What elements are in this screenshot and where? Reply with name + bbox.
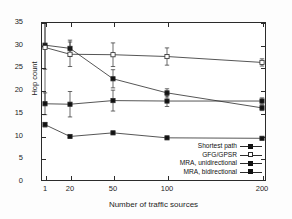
legend-key-filled-square-icon bbox=[240, 142, 262, 151]
y-tick-label: 0 bbox=[0, 177, 23, 184]
legend-key-filled-square-icon bbox=[240, 159, 262, 168]
legend-item-mra-bidirectional: MRA, bidirectional bbox=[178, 168, 262, 177]
y-tick-label: 10 bbox=[0, 132, 23, 139]
legend-label: Shortest path bbox=[198, 142, 240, 151]
legend-label: MRA, unidirectional bbox=[180, 159, 240, 168]
x-axis-title: Number of traffic sources bbox=[41, 200, 266, 209]
y-tick-label: 15 bbox=[0, 109, 23, 116]
legend-key-open-square-icon bbox=[240, 151, 262, 160]
legend-item-mra-unidirectional: MRA, unidirectional bbox=[178, 159, 262, 168]
y-tick-label: 35 bbox=[0, 18, 23, 25]
x-tick-label: 100 bbox=[147, 184, 187, 193]
legend-item-shortest-path: Shortest path bbox=[178, 142, 262, 151]
chart-figure: Hop count 35 30 25 20 15 10 5 0 1 20 50 … bbox=[0, 0, 292, 219]
x-tick-label: 200 bbox=[242, 184, 282, 193]
y-tick-label: 5 bbox=[0, 154, 23, 161]
y-tick-label: 30 bbox=[0, 41, 23, 48]
y-axis-title: Hop count bbox=[30, 44, 39, 114]
y-tick-label: 25 bbox=[0, 63, 23, 70]
x-tick-label: 50 bbox=[93, 184, 133, 193]
legend-key-filled-square-icon bbox=[240, 168, 262, 177]
legend-label: GFG/GPSR bbox=[202, 151, 240, 160]
x-tick-label: 20 bbox=[50, 184, 90, 193]
y-tick-label: 20 bbox=[0, 86, 23, 93]
chart-legend: Shortest path GFG/GPSR MRA, unidirection… bbox=[178, 142, 262, 176]
legend-item-gfg-gpsr: GFG/GPSR bbox=[178, 151, 262, 160]
legend-label: MRA, bidirectional bbox=[183, 168, 240, 177]
